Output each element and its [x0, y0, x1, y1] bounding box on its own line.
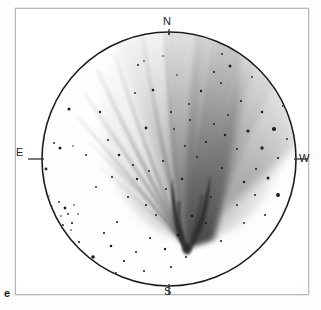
star-point	[135, 251, 137, 253]
star-point	[116, 221, 118, 223]
star-point	[162, 160, 164, 162]
star-point	[213, 71, 215, 73]
star-point	[173, 128, 175, 130]
plate-grain	[16, 9, 308, 294]
star-point	[267, 177, 270, 180]
star-point	[60, 215, 62, 217]
plate-frame	[15, 8, 309, 295]
star-point	[189, 119, 191, 121]
star-point	[177, 234, 180, 237]
star-point	[73, 204, 75, 206]
star-point	[229, 65, 232, 68]
star-point	[254, 194, 256, 196]
star-point	[162, 55, 164, 57]
star-point	[276, 193, 280, 197]
star-point	[260, 146, 263, 149]
star-point	[205, 141, 207, 143]
star-point	[132, 164, 134, 166]
star-point	[205, 222, 207, 224]
direction-label-south: S	[164, 286, 172, 297]
star-point	[148, 170, 150, 172]
star-point	[188, 103, 190, 105]
direction-label-north: N	[163, 16, 171, 27]
star-point	[145, 127, 148, 130]
star-point	[68, 108, 71, 111]
star-point	[111, 176, 113, 178]
star-point	[185, 256, 187, 258]
star-point	[224, 134, 226, 136]
star-point	[152, 89, 155, 92]
star-point	[213, 123, 215, 125]
star-point	[72, 145, 74, 147]
star-point	[53, 142, 55, 144]
star-point	[64, 207, 67, 210]
star-point	[221, 53, 223, 55]
star-point	[255, 168, 257, 170]
star-point	[145, 204, 147, 206]
star-point	[243, 222, 245, 224]
star-point	[45, 168, 48, 171]
star-point	[95, 186, 97, 188]
star-point	[261, 111, 264, 114]
star-point	[118, 154, 121, 157]
comet-image	[16, 9, 308, 294]
star-point	[221, 167, 223, 169]
star-point	[103, 232, 105, 234]
star-point	[149, 237, 151, 239]
star-point	[58, 201, 60, 203]
star-point	[134, 92, 136, 94]
star-point	[99, 111, 101, 113]
direction-label-west: W	[299, 153, 310, 164]
star-point	[272, 127, 276, 131]
star-point	[127, 196, 129, 198]
star-point	[165, 188, 167, 190]
star-point	[70, 229, 72, 231]
star-point	[220, 240, 222, 242]
star-point	[155, 214, 157, 216]
star-point	[286, 138, 288, 140]
star-point	[40, 131, 44, 135]
star-point	[48, 195, 49, 196]
star-point	[246, 129, 249, 132]
star-point	[196, 156, 198, 158]
star-point	[71, 222, 73, 224]
star-point	[184, 145, 186, 147]
star-point	[176, 74, 178, 76]
star-point	[91, 255, 95, 259]
star-point	[251, 76, 253, 78]
star-point	[210, 196, 212, 198]
comet-field-figure	[16, 9, 308, 294]
star-point	[236, 204, 238, 206]
star-point	[110, 245, 113, 248]
star-point	[59, 147, 62, 150]
figure-letter-label: e	[4, 288, 10, 299]
star-point	[181, 178, 183, 180]
star-point	[243, 181, 245, 183]
star-point	[78, 241, 80, 243]
direction-label-east: E	[16, 147, 24, 158]
star-point	[170, 111, 172, 113]
star-point	[136, 178, 138, 180]
star-point	[143, 60, 145, 62]
star-point	[264, 214, 266, 216]
star-point	[164, 248, 166, 250]
star-point	[137, 64, 139, 66]
star-point	[240, 100, 242, 102]
star-point	[227, 114, 229, 116]
star-point	[170, 266, 172, 268]
star-point	[107, 139, 109, 141]
star-point	[85, 154, 87, 156]
star-point	[277, 157, 279, 159]
star-point	[77, 213, 79, 215]
star-point	[200, 90, 202, 92]
star-point	[191, 215, 194, 218]
star-point	[62, 224, 64, 226]
star-point	[123, 260, 125, 262]
star-point	[67, 213, 69, 215]
star-point	[143, 270, 145, 272]
star-point	[220, 82, 222, 84]
star-point	[236, 148, 238, 150]
